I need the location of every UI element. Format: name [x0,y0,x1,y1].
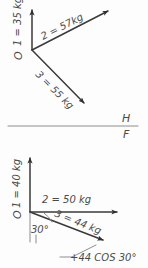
cos-annotation-label: +44 COS 30° [70,252,136,263]
divider-label-h: H [122,112,130,125]
upper-origin-label: O [12,51,25,60]
divider-label-f: F [123,128,130,141]
force-diagram-page: 1 = 35 kg 2 = 57kg 3 = 55 kg O H F 1 = 4… [0,0,148,268]
upper-vector-1-label: 1 = 35 kg [12,0,23,46]
lower-vector-1-label: 1 = 40 kg [11,159,22,208]
angle-label: 30° [31,224,49,235]
upper-vector-3-label: 3 = 55 kg [34,69,77,112]
diagram-canvas: 1 = 35 kg 2 = 57kg 3 = 55 kg O H F 1 = 4… [0,0,148,268]
lower-origin-label: O [11,210,24,219]
lower-vector-2-label: 2 = 50 kg [42,194,91,205]
